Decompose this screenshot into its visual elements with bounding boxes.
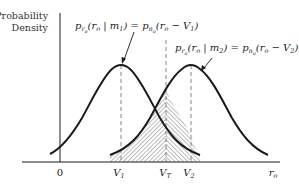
curve1-annotation: pro(ro | m1) = pno(ro − V1) bbox=[75, 20, 198, 34]
x-axis-label: ro bbox=[269, 167, 278, 180]
arrow-curve1 bbox=[122, 32, 135, 64]
tick-label-v1: V1 bbox=[113, 167, 124, 180]
tick-label-origin: 0 bbox=[57, 167, 63, 178]
arrow-curve2 bbox=[201, 58, 212, 71]
probability-density-diagram: Probability Density pro(ro | m1) = pno(r… bbox=[0, 0, 299, 187]
density-curve-m1 bbox=[50, 65, 200, 155]
tick-label-vt: VT bbox=[159, 167, 171, 180]
curve2-annotation: pro(ro | m2) = pno(ro − V2) bbox=[175, 42, 298, 56]
y-axis-label-line1: Probability bbox=[0, 10, 49, 21]
tick-label-v2: V2 bbox=[183, 167, 194, 180]
error-region-m1 bbox=[166, 90, 200, 162]
y-axis-label-line2: Density bbox=[12, 22, 49, 33]
